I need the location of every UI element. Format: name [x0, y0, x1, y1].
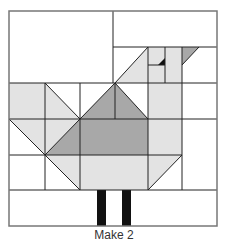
quilt-block-diagram — [0, 0, 230, 228]
right-leg — [122, 190, 131, 226]
left-leg — [97, 190, 106, 226]
caption: Make 2 — [0, 228, 228, 242]
